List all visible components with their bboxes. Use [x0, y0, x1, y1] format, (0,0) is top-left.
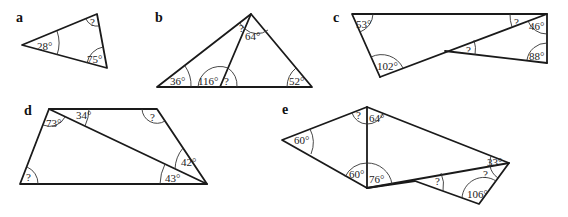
angle-arc: [228, 68, 237, 87]
angle-diagrams: a 28° ? 75° b 36° ? 64° 116° ? 52° c: [0, 0, 568, 217]
angle-label: 28°: [37, 40, 52, 52]
figure-e: e 60° ? 64° 60° 76° ? 33° ? 106°: [282, 102, 509, 204]
angle-label: 42°: [181, 156, 196, 168]
figure-c: c 53° ? 46° ? 88° 102°: [333, 10, 547, 77]
angle-label: ?: [90, 16, 95, 28]
angle-label: 75°: [87, 53, 102, 65]
figure-label: c: [333, 10, 339, 25]
angle-label: 46°: [529, 20, 544, 32]
angle-label: ?: [514, 16, 519, 28]
angle-label: 33°: [487, 156, 502, 168]
angle-arc: [185, 66, 191, 87]
figure-d: d 73° 34° ? 42° 43° ?: [20, 103, 207, 184]
angle-label: ?: [356, 109, 361, 121]
angle-label: 73°: [46, 117, 61, 129]
angle-label: 53°: [356, 18, 371, 30]
figure-b: b 36° ? 64° 116° ? 52°: [155, 10, 312, 87]
diagonal: [49, 109, 207, 184]
angle-label: 116°: [198, 75, 219, 87]
angle-label: 76°: [369, 173, 384, 185]
angle-arc: [57, 31, 59, 55]
figure-label: e: [282, 102, 288, 117]
figure-label: d: [24, 103, 32, 118]
figure-label: b: [155, 10, 163, 25]
angle-label: 64°: [245, 30, 260, 42]
angle-label: 52°: [289, 75, 304, 87]
angle-label: 102°: [377, 60, 398, 72]
angle-label: ?: [483, 168, 488, 180]
angle-label: 60°: [349, 168, 364, 180]
figure-a: a 28° ? 75°: [16, 10, 107, 68]
angle-label: 36°: [170, 75, 185, 87]
figure-label: a: [16, 10, 23, 25]
diagonal: [380, 14, 547, 77]
angle-label: 106°: [467, 188, 488, 200]
angle-label: 43°: [165, 172, 180, 184]
angle-label: ?: [150, 111, 155, 123]
angle-label: ?: [224, 75, 229, 87]
angle-label: 88°: [529, 50, 544, 62]
angle-arc: [310, 129, 313, 154]
angle-label: 60°: [294, 134, 309, 146]
angle-label: ?: [239, 22, 244, 34]
angle-label: ?: [435, 175, 440, 187]
angle-arc: [474, 40, 476, 55]
angle-label: ?: [466, 44, 471, 56]
angle-label: 34°: [76, 109, 91, 121]
angle-arc: [510, 14, 512, 27]
angle-label: ?: [26, 171, 31, 183]
angle-label: 64°: [369, 112, 384, 124]
